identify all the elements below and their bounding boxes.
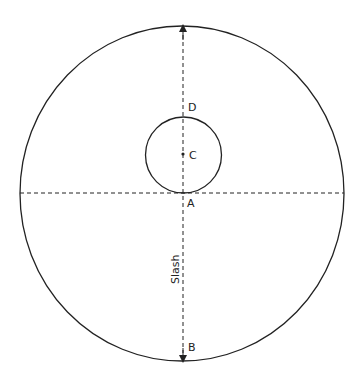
label-b: B — [188, 341, 196, 354]
slash-label: Slash — [169, 254, 182, 284]
diagram-canvas: D C A B Slash — [0, 0, 360, 375]
label-d: D — [188, 101, 196, 114]
point-c-dot — [181, 152, 184, 155]
label-a: A — [187, 197, 195, 210]
label-c: C — [189, 149, 197, 162]
